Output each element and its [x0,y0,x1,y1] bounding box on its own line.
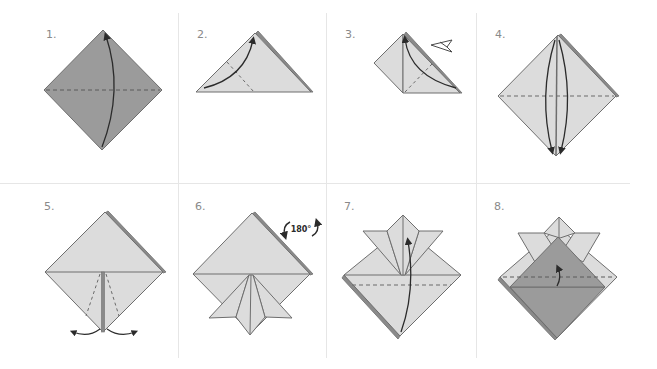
step-3-panel [374,32,462,93]
paper-triangle-light [196,33,311,92]
fold-out-left-arrow-icon [73,329,100,334]
step-2-label: 2. [197,29,208,40]
paper-left-flap [374,34,403,93]
step-2-panel [196,31,313,92]
dark-lower-diamond [510,287,605,338]
paper-right-triangle [403,34,460,93]
repeat-behind-arrow-icon [431,40,452,52]
step-6-label: 6. [195,201,206,212]
step-8-label: 8. [494,201,505,212]
step-5-label: 5. [44,201,55,212]
step-3-label: 3. [345,29,356,40]
rotate-180-label: 180° [291,225,312,234]
step-6-panel: 180° [193,212,318,335]
step-4-label: 4. [495,29,506,40]
rotate-180-icon: 180° [284,222,318,236]
step-1-label: 1. [46,29,57,40]
step-7-label: 7. [344,201,355,212]
step-8-panel [498,217,617,340]
step-7-panel [342,215,461,339]
step-4-panel [498,34,619,156]
fold-out-right-arrow-icon [107,329,135,334]
step-1-panel [44,30,162,150]
center-slit [102,272,105,332]
step-5-panel [45,211,166,334]
origami-instructions-diagram: 180° [0,0,657,369]
